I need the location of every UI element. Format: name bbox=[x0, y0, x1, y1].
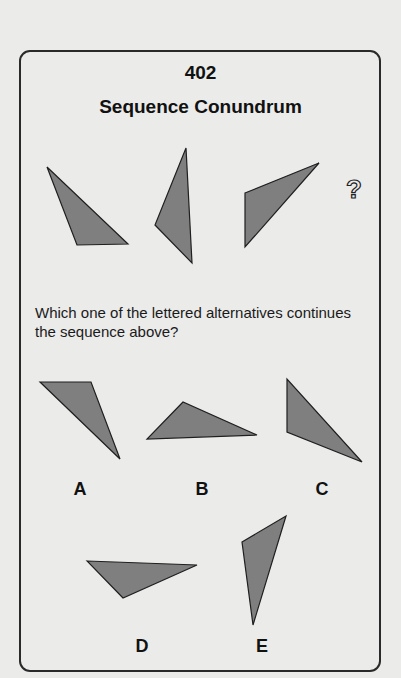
option-a-label[interactable]: A bbox=[65, 479, 95, 500]
option-c-label[interactable]: C bbox=[307, 479, 337, 500]
sequence-triangle-3 bbox=[245, 163, 319, 247]
option-b-triangle[interactable] bbox=[147, 402, 257, 439]
sequence-triangle-2 bbox=[155, 148, 192, 263]
sequence-triangle-1 bbox=[47, 167, 128, 245]
sequence-row bbox=[47, 148, 319, 263]
question-text: Which one of the lettered alternatives c… bbox=[35, 303, 375, 341]
option-d-label[interactable]: D bbox=[127, 636, 157, 657]
option-e-label[interactable]: E bbox=[247, 636, 277, 657]
option-d-triangle[interactable] bbox=[87, 561, 197, 598]
options-row bbox=[40, 379, 362, 625]
option-b-label[interactable]: B bbox=[187, 479, 217, 500]
option-e-triangle[interactable] bbox=[242, 516, 286, 625]
option-c-triangle[interactable] bbox=[287, 379, 362, 462]
question-mark-icon: ? bbox=[340, 174, 368, 205]
option-a-triangle[interactable] bbox=[40, 382, 120, 459]
